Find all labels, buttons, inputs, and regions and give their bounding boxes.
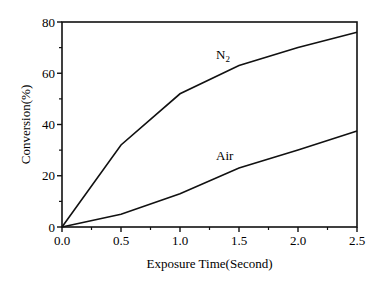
- x-tick-label: 2.0: [290, 233, 306, 248]
- y-tick-label: 80: [42, 15, 55, 30]
- x-tick-label: 0.0: [54, 233, 70, 248]
- x-tick-label: 0.5: [113, 233, 129, 248]
- y-tick-label: 0: [49, 220, 56, 235]
- x-tick-label: 1.5: [231, 233, 247, 248]
- series-line-n2: [62, 32, 357, 227]
- plot-frame: [62, 22, 357, 227]
- x-tick-label: 1.0: [172, 233, 188, 248]
- y-tick-label: 40: [42, 117, 55, 132]
- series-label-air: Air: [216, 148, 234, 163]
- series-label-n2: N2: [216, 47, 230, 64]
- line-chart: 0.00.51.01.52.02.5020406080Exposure Time…: [0, 0, 389, 288]
- y-tick-label: 20: [42, 168, 55, 183]
- x-tick-label: 2.5: [349, 233, 365, 248]
- x-axis-title: Exposure Time(Second): [146, 256, 272, 271]
- series-line-air: [62, 131, 357, 227]
- y-axis-title: Conversion(%): [18, 85, 33, 164]
- y-tick-label: 60: [42, 66, 55, 81]
